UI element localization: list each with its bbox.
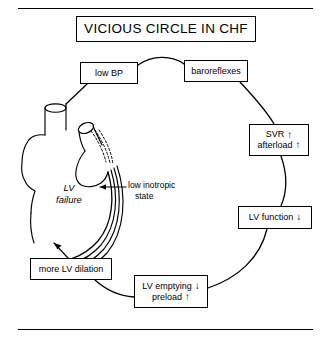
up-arrow-icon: ↑: [296, 140, 301, 150]
down-arrow-icon: ↓: [296, 212, 301, 222]
up-arrow-icon: ↑: [185, 291, 190, 301]
aorta-opening: [45, 104, 66, 112]
annotation-lv-failure: LV failure: [56, 182, 82, 206]
node-lv-function: LV function ↓: [238, 206, 312, 229]
node-svr-line: SVR ↑: [266, 129, 293, 140]
node-lv-function-label: LV function: [249, 212, 293, 223]
node-svr-label: SVR: [266, 129, 285, 140]
pulmonary-tube-left: [79, 132, 85, 151]
figure-title-box: VICIOUS CIRCLE IN CHF: [76, 16, 256, 42]
heart-outer-silhouette: [22, 135, 45, 213]
connector-lvfunction-to-lvemptying: [208, 229, 267, 288]
node-lv-emptying-preload: LV emptying ↓ preload ↑: [134, 275, 208, 308]
annotation-lv-failure-line2: failure: [56, 194, 82, 206]
node-more-lv-dilation-label: more LV dilation: [39, 264, 103, 275]
node-baroreflexes-label: baroreflexes: [191, 66, 241, 77]
annotation-inotropic-line1: low inotropic: [128, 180, 175, 191]
node-preload-line: preload ↑: [152, 292, 190, 303]
annotation-inotropic-line2: state: [128, 191, 175, 202]
node-more-lv-dilation: more LV dilation: [30, 258, 112, 280]
dilation-arrow: [54, 243, 68, 258]
node-preload-label: preload: [152, 292, 182, 303]
connector-baroreflexes-to-svr: [240, 82, 274, 124]
connector-lowbp-to-baroreflexes: [138, 57, 184, 65]
annotation-lv-failure-line1: LV: [56, 182, 82, 194]
connector-lvemptying-to-dilation: [95, 280, 134, 297]
annotation-low-inotropic-state: low inotropic state: [128, 180, 175, 202]
node-afterload-line: afterload ↑: [257, 140, 300, 151]
down-arrow-icon: ↓: [195, 281, 200, 291]
figure-container: VICIOUS CIRCLE IN CHF low BP baroreflexe…: [0, 0, 331, 340]
node-low-bp: low BP: [80, 62, 138, 84]
node-afterload-label: afterload: [257, 140, 292, 151]
connector-lowbp-to-heart: [66, 84, 87, 104]
node-lv-emptying-line: LV emptying ↓: [142, 281, 199, 292]
up-arrow-icon: ↑: [287, 129, 292, 139]
heart-lower-body: [31, 213, 34, 243]
connector-svr-to-lvfunction: [281, 156, 286, 206]
node-baroreflexes: baroreflexes: [184, 60, 248, 82]
node-svr-afterload: SVR ↑ afterload ↑: [249, 124, 309, 156]
page-title: VICIOUS CIRCLE IN CHF: [84, 21, 248, 37]
node-low-bp-label: low BP: [95, 68, 123, 79]
node-lv-function-line: LV function ↓: [249, 212, 301, 223]
